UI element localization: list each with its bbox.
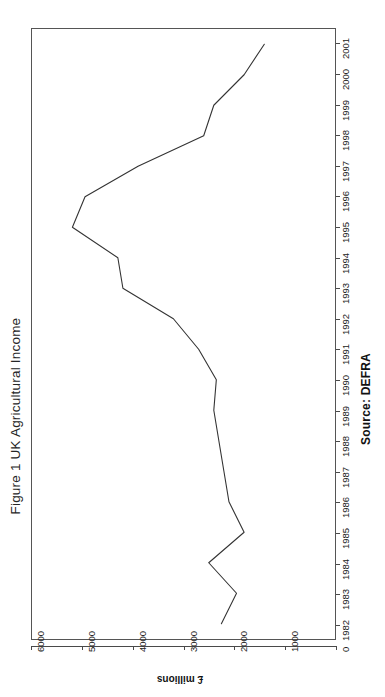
category-axis-label-2001: 2001 xyxy=(340,19,351,59)
plot-area xyxy=(31,28,336,640)
category-axis-tick xyxy=(336,472,340,473)
category-axis-tick xyxy=(336,319,340,320)
category-axis-tick xyxy=(336,105,340,106)
category-axis-tick xyxy=(336,411,340,412)
value-axis-tick xyxy=(184,646,185,650)
line-series-uk-agricultural-income xyxy=(32,29,335,639)
category-axis-tick xyxy=(336,380,340,381)
value-axis-label: 2000 xyxy=(238,612,249,652)
figure-title: Figure 1 UK Agricultural Income xyxy=(8,185,23,515)
value-axis-tick xyxy=(285,646,286,650)
value-axis-label: 5000 xyxy=(86,612,97,652)
category-axis-tick xyxy=(336,135,340,136)
category-axis-tick xyxy=(336,625,340,626)
value-axis-label: 6000 xyxy=(35,612,46,652)
category-axis-tick xyxy=(336,258,340,259)
value-axis-label: 4000 xyxy=(137,612,148,652)
category-axis-tick xyxy=(336,74,340,75)
category-axis-tick xyxy=(336,594,340,595)
category-axis-tick xyxy=(336,166,340,167)
category-axis-tick xyxy=(336,441,340,442)
value-axis-label: 1000 xyxy=(289,612,300,652)
figure-container: Figure 1 UK Agricultural Income 60005000… xyxy=(0,0,385,697)
source-note: Source: DEFRA xyxy=(359,329,373,469)
category-axis-tick xyxy=(336,533,340,534)
category-axis-tick xyxy=(336,502,340,503)
category-axis-tick xyxy=(336,288,340,289)
value-axis-label: 3000 xyxy=(188,612,199,652)
value-axis-tick xyxy=(336,646,337,650)
category-axis-tick xyxy=(336,227,340,228)
value-axis-tick xyxy=(234,646,235,650)
value-axis-tick xyxy=(82,646,83,650)
category-axis-tick xyxy=(336,564,340,565)
value-axis-tick xyxy=(31,646,32,650)
value-axis-tick xyxy=(133,646,134,650)
category-axis-tick xyxy=(336,349,340,350)
category-axis-tick xyxy=(336,43,340,44)
value-axis-title: £ millions xyxy=(120,674,240,685)
category-axis-tick xyxy=(336,196,340,197)
